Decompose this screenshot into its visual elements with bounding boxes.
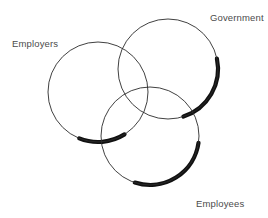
circle-outlines [48,19,218,185]
government-shadow-arc [183,59,218,117]
employees-shadow-arc [135,143,199,185]
government-label: Government [210,12,264,24]
venn-diagram: Employers Government Employees [0,0,268,218]
venn-diagram-canvas [0,0,268,218]
employees-label: Employees [196,198,244,210]
employers-label: Employers [12,38,58,50]
employers-circle[interactable] [48,42,148,142]
